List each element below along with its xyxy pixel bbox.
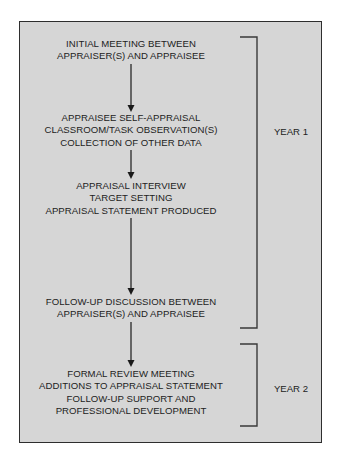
step-line: CLASSROOM/TASK OBSERVATION(S) [19, 124, 243, 136]
step-line: APPRAISER(S) AND APPRAISEE [19, 308, 243, 320]
step-line: FOLLOW-UP SUPPORT AND [19, 393, 243, 405]
step-appraisal-interview: APPRAISAL INTERVIEW TARGET SETTING APPRA… [19, 180, 243, 217]
step-line: INITIAL MEETING BETWEEN [19, 38, 243, 50]
arrow-head-icon [128, 288, 135, 295]
step-line: FOLLOW-UP DISCUSSION BETWEEN [19, 296, 243, 308]
step-line: COLLECTION OF OTHER DATA [19, 137, 243, 149]
step-line: APPRAISAL STATEMENT PRODUCED [19, 205, 243, 217]
step-line: PROFESSIONAL DEVELOPMENT [19, 405, 243, 417]
step-self-appraisal: APPRAISEE SELF-APPRAISAL CLASSROOM/TASK … [19, 112, 243, 149]
arrow-head-icon [128, 360, 135, 367]
arrow-head-icon [128, 105, 135, 112]
step-line: APPRAISER(S) AND APPRAISEE [19, 50, 243, 62]
step-line: ADDITIONS TO APPRAISAL STATEMENT [19, 380, 243, 392]
step-line: APPRAISEE SELF-APPRAISAL [19, 112, 243, 124]
step-line: TARGET SETTING [19, 192, 243, 204]
step-follow-up-discussion: FOLLOW-UP DISCUSSION BETWEEN APPRAISER(S… [19, 296, 243, 321]
step-line: FORMAL REVIEW MEETING [19, 368, 243, 380]
step-initial-meeting: INITIAL MEETING BETWEEN APPRAISER(S) AND… [19, 38, 243, 63]
step-line: APPRAISAL INTERVIEW [19, 180, 243, 192]
phase-label-year-1: YEAR 1 [264, 126, 318, 137]
arrow-head-icon [128, 172, 135, 179]
phase-label-year-2: YEAR 2 [264, 383, 318, 394]
step-formal-review: FORMAL REVIEW MEETING ADDITIONS TO APPRA… [19, 368, 243, 418]
